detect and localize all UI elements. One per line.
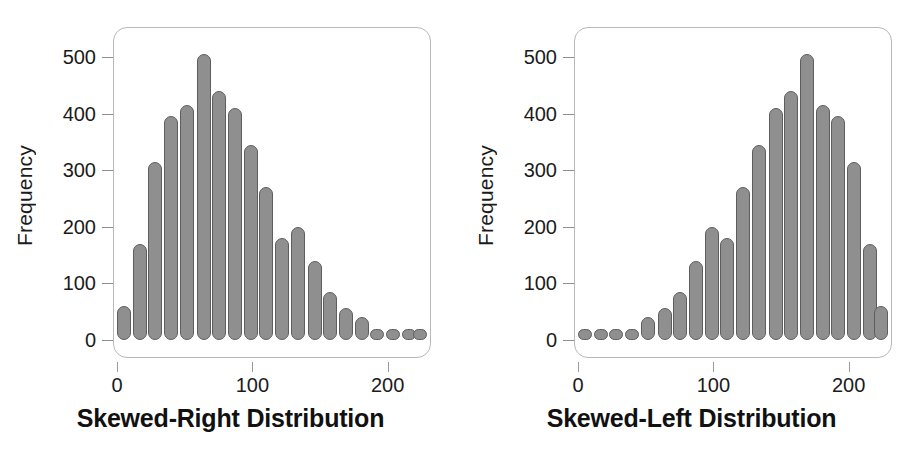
histogram-bar xyxy=(386,329,400,340)
y-tick-mark xyxy=(563,227,574,228)
histogram-bar xyxy=(816,105,830,340)
y-axis-title: Frequency xyxy=(10,110,40,280)
x-tick-mark xyxy=(252,362,253,372)
histogram-bar xyxy=(752,145,766,340)
y-tick-mark xyxy=(563,170,574,171)
y-tick-label: 0 xyxy=(36,329,96,352)
x-tick-mark xyxy=(117,362,118,372)
histogram-bar xyxy=(244,145,258,340)
y-tick-label: 400 xyxy=(497,102,557,125)
y-tick-mark xyxy=(102,170,113,171)
histogram-bar xyxy=(800,54,814,340)
x-tick-label: 100 xyxy=(673,374,753,397)
histogram-bar xyxy=(275,238,289,340)
histogram-bar xyxy=(641,317,655,340)
histogram-bar xyxy=(413,329,427,340)
y-tick-mark xyxy=(102,114,113,115)
y-tick-label: 500 xyxy=(497,45,557,68)
histogram-bar xyxy=(259,187,273,340)
y-tick-label: 400 xyxy=(36,102,96,125)
y-tick-mark xyxy=(102,283,113,284)
y-tick-label: 100 xyxy=(36,272,96,295)
y-tick-label: 300 xyxy=(36,159,96,182)
y-tick-label: 200 xyxy=(497,215,557,238)
panel-skewed-left: Frequency 01002003004005000100200 Skewed… xyxy=(461,0,922,463)
histogram-bar xyxy=(736,187,750,340)
histogram-bar xyxy=(228,108,242,340)
x-tick-label: 0 xyxy=(538,374,618,397)
histogram-bar xyxy=(874,306,888,340)
histogram-bar xyxy=(308,261,322,340)
plot-area-skewed-left xyxy=(574,27,892,358)
y-tick-label: 300 xyxy=(497,159,557,182)
histogram-bar xyxy=(720,238,734,340)
y-tick-mark xyxy=(102,227,113,228)
y-tick-mark xyxy=(563,283,574,284)
histogram-bar xyxy=(831,116,845,340)
y-tick-label: 200 xyxy=(36,215,96,238)
histogram-bar xyxy=(769,108,783,340)
y-tick-mark xyxy=(563,340,574,341)
x-tick-mark xyxy=(578,362,579,372)
figure-two-histograms: Frequency 01002003004005000100200 Skewed… xyxy=(0,0,923,463)
histogram-bar xyxy=(164,116,178,340)
histogram-bar xyxy=(291,227,305,340)
y-tick-mark xyxy=(563,114,574,115)
histogram-bar xyxy=(355,317,369,340)
y-tick-mark xyxy=(102,340,113,341)
x-tick-mark xyxy=(388,362,389,372)
histogram-bar xyxy=(323,292,337,340)
histogram-bar xyxy=(625,329,639,340)
x-tick-label: 200 xyxy=(809,374,889,397)
histogram-bar xyxy=(148,162,162,340)
histogram-bar xyxy=(784,91,798,340)
histogram-bar xyxy=(197,54,211,340)
histogram-bar xyxy=(339,308,353,340)
y-tick-mark xyxy=(563,57,574,58)
y-tick-label: 500 xyxy=(36,45,96,68)
histogram-bar xyxy=(705,227,719,340)
histogram-bar xyxy=(180,105,194,340)
plot-area-skewed-right xyxy=(113,27,431,358)
histogram-bar xyxy=(133,244,147,340)
histogram-bar xyxy=(578,329,592,340)
histogram-bar xyxy=(117,306,131,340)
histogram-bar xyxy=(847,162,861,340)
histogram-bar xyxy=(212,91,226,340)
x-tick-mark xyxy=(713,362,714,372)
histogram-bar xyxy=(609,329,623,340)
y-axis-title: Frequency xyxy=(471,110,501,280)
histogram-bar xyxy=(658,308,672,340)
histogram-bar xyxy=(594,329,608,340)
chart-title: Skewed-Right Distribution xyxy=(0,404,461,433)
x-tick-label: 0 xyxy=(77,374,157,397)
x-tick-label: 100 xyxy=(212,374,292,397)
y-tick-label: 0 xyxy=(497,329,557,352)
y-tick-label: 100 xyxy=(497,272,557,295)
histogram-bar xyxy=(689,261,703,340)
x-tick-label: 200 xyxy=(348,374,428,397)
panel-skewed-right: Frequency 01002003004005000100200 Skewed… xyxy=(0,0,461,463)
histogram-bar xyxy=(370,329,384,340)
histogram-bar xyxy=(673,292,687,340)
chart-title: Skewed-Left Distribution xyxy=(461,404,922,433)
y-tick-mark xyxy=(102,57,113,58)
x-tick-mark xyxy=(849,362,850,372)
